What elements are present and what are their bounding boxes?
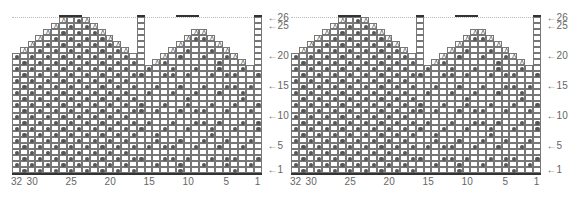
chart-cell	[400, 65, 408, 71]
chart-cell	[470, 161, 478, 167]
chart-cell	[470, 59, 478, 65]
chart-cell	[307, 155, 315, 161]
chart-cell	[447, 83, 455, 89]
chart-cell	[353, 35, 361, 41]
chart-cell	[447, 161, 455, 167]
contrast-stitch-dot-icon	[364, 133, 368, 137]
decrease-icon: Λ	[339, 17, 347, 23]
contrast-stitch-dot-icon	[317, 85, 321, 89]
chart-cell	[338, 83, 346, 89]
contrast-stitch-dot-icon	[535, 121, 539, 125]
column-label: 25	[345, 176, 356, 187]
chart-cell	[424, 71, 432, 77]
column-label: 20	[384, 176, 395, 187]
contrast-stitch-dot-icon	[294, 127, 298, 131]
chart-cell	[525, 77, 533, 83]
contrast-stitch-dot-icon	[442, 157, 446, 161]
chart-cell	[314, 143, 322, 149]
chart-cell	[353, 107, 361, 113]
chart-cell	[478, 119, 486, 125]
chart-cell	[502, 83, 510, 89]
chart-cell	[314, 71, 322, 77]
chart-cell	[338, 53, 346, 59]
chart-cell	[408, 89, 416, 95]
chart-cell	[361, 23, 369, 29]
chart-cell	[400, 113, 408, 119]
chart-cell	[338, 137, 346, 143]
chart-cell	[330, 113, 338, 119]
chart-cell	[455, 113, 463, 119]
contrast-stitch-dot-icon	[504, 55, 508, 59]
chart-cell	[439, 71, 447, 77]
contrast-stitch-dot-icon	[535, 127, 539, 131]
chart-cell	[322, 71, 330, 77]
chart-cell	[517, 101, 525, 107]
contrast-stitch-dot-icon	[372, 55, 376, 59]
chart-cell	[533, 23, 541, 29]
column-label: 1	[534, 176, 540, 187]
contrast-stitch-dot-icon	[379, 157, 383, 161]
row-label: ←10	[547, 110, 568, 121]
chart-cell	[369, 29, 377, 35]
chart-cell	[346, 119, 354, 125]
chart-cell	[455, 65, 463, 71]
decrease-icon: Λ	[518, 59, 526, 65]
contrast-stitch-dot-icon	[426, 67, 430, 71]
chart-cell	[314, 131, 322, 137]
contrast-stitch-dot-icon	[356, 115, 360, 119]
contrast-stitch-dot-icon	[473, 67, 477, 71]
chart-cell	[463, 95, 471, 101]
chart-cell	[291, 119, 299, 125]
chart-cell	[299, 65, 307, 71]
chart-cell	[455, 143, 463, 149]
chart-cell	[346, 161, 354, 167]
contrast-stitch-dot-icon	[372, 43, 376, 47]
chart-cell	[447, 125, 455, 131]
chart-cell	[431, 155, 439, 161]
chart-cell	[509, 125, 517, 131]
contrast-stitch-dot-icon	[364, 61, 368, 65]
contrast-stitch-dot-icon	[348, 157, 352, 161]
chart-cell	[533, 143, 541, 149]
row-label: ←1	[547, 164, 563, 175]
contrast-stitch-dot-icon	[512, 73, 516, 77]
contrast-stitch-dot-icon	[395, 157, 399, 161]
chart-cell	[525, 89, 533, 95]
chart-cell	[400, 149, 408, 155]
chart-cell	[307, 113, 315, 119]
chart-cell	[455, 119, 463, 125]
chart-cell	[314, 41, 322, 47]
chart-cell	[533, 35, 541, 41]
chart-cell	[416, 89, 424, 95]
chart-cell	[322, 149, 330, 155]
chart-cell	[346, 149, 354, 155]
chart-cell	[330, 101, 338, 107]
chart-cell	[299, 143, 307, 149]
contrast-stitch-dot-icon	[496, 91, 500, 95]
chart-cell	[463, 47, 471, 53]
chart-cell	[385, 155, 393, 161]
chart-cell	[353, 59, 361, 65]
chart-cell	[408, 131, 416, 137]
chart-cell	[517, 65, 525, 71]
chart-cell	[291, 131, 299, 137]
chart-cell	[299, 83, 307, 89]
chart-cell	[509, 107, 517, 113]
chart-cell	[463, 71, 471, 77]
chart-cell	[369, 107, 377, 113]
contrast-stitch-dot-icon	[387, 103, 391, 107]
chart-cell	[392, 95, 400, 101]
contrast-stitch-dot-icon	[340, 55, 344, 59]
chart-cell	[478, 155, 486, 161]
chart-cell	[416, 47, 424, 53]
contrast-stitch-dot-icon	[325, 163, 329, 167]
contrast-stitch-dot-icon	[348, 73, 352, 77]
contrast-stitch-dot-icon	[434, 139, 438, 143]
chart-cell	[369, 131, 377, 137]
chart-cell	[314, 101, 322, 107]
contrast-stitch-dot-icon	[372, 79, 376, 83]
chart-cell	[408, 161, 416, 167]
chart-cell	[392, 125, 400, 131]
contrast-stitch-dot-icon	[528, 109, 532, 113]
decrease-icon: Λ	[456, 41, 464, 47]
